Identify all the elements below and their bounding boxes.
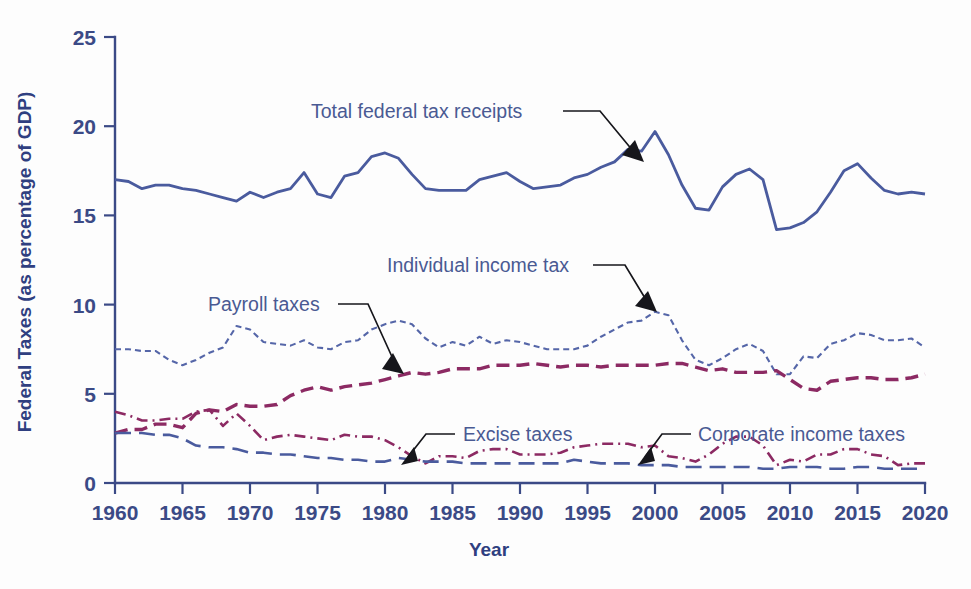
y-tick-label: 10 <box>73 294 96 317</box>
y-tick-label: 25 <box>73 26 97 49</box>
x-tick-label: 2000 <box>632 501 679 524</box>
x-tick-label: 1965 <box>159 501 206 524</box>
y-tick-label: 0 <box>84 472 96 495</box>
x-tick-label: 1975 <box>294 501 341 524</box>
x-tick-label: 2020 <box>902 501 949 524</box>
x-tick-label: 1985 <box>429 501 476 524</box>
chart-background <box>0 0 971 589</box>
x-tick-label: 1960 <box>92 501 139 524</box>
x-tick-label: 1970 <box>227 501 274 524</box>
federal-taxes-line-chart: 0510152025 19601965197019751980198519901… <box>0 0 971 589</box>
annotation-label: Corporate income taxes <box>698 423 905 445</box>
x-tick-label: 2005 <box>699 501 746 524</box>
y-tick-label: 5 <box>84 383 96 406</box>
y-axis-title: Federal Taxes (as percentage of GDP) <box>14 92 35 433</box>
x-tick-label: 1980 <box>362 501 409 524</box>
annotation-label: Excise taxes <box>463 423 573 445</box>
chart-container: 0510152025 19601965197019751980198519901… <box>0 0 971 589</box>
annotation-label: Payroll taxes <box>208 293 320 315</box>
x-axis-title: Year <box>469 539 510 560</box>
x-tick-label: 1995 <box>564 501 611 524</box>
x-tick-label: 2015 <box>834 501 881 524</box>
annotation-label: Individual income tax <box>387 254 569 276</box>
annotation-label: Total federal tax receipts <box>311 100 523 122</box>
y-tick-label: 20 <box>73 115 96 138</box>
x-tick-label: 1990 <box>497 501 544 524</box>
y-tick-label: 15 <box>73 204 97 227</box>
x-tick-label: 2010 <box>767 501 814 524</box>
